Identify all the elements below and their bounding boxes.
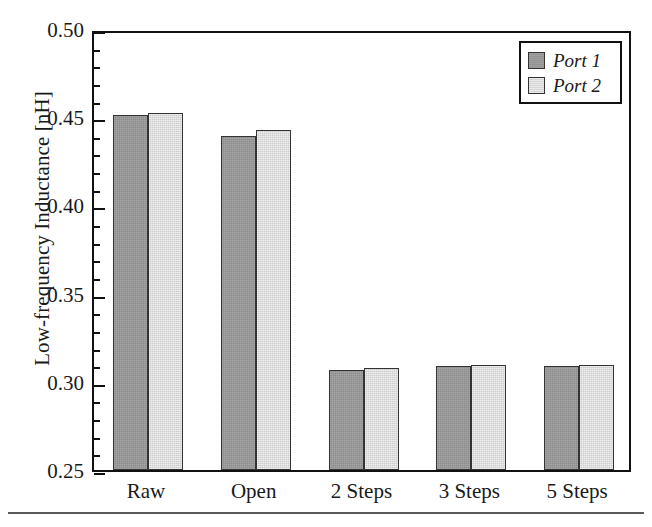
y-axis-tick-label: 0.45	[24, 108, 84, 129]
bar-open-port-2	[256, 130, 291, 470]
y-axis-tick-labels: 0.250.300.350.400.450.50	[20, 0, 84, 527]
y-axis-tick-label: 0.50	[24, 20, 84, 41]
legend: Port 1 Port 2	[519, 41, 622, 104]
bar-5-steps-port-2	[579, 365, 614, 470]
y-axis-minor-tick	[94, 455, 100, 457]
bar-open-port-1	[221, 136, 256, 470]
legend-item-port-2: Port 2	[528, 73, 614, 98]
bar-chart-figure: Low-frequency Inductance [nH] 0.250.300.…	[0, 0, 652, 527]
y-axis-minor-tick	[94, 244, 100, 246]
footer-divider	[8, 512, 644, 514]
y-axis-minor-tick	[94, 314, 100, 316]
y-axis-minor-tick	[94, 191, 100, 193]
bar-3-steps-port-1	[436, 366, 471, 470]
y-axis-major-tick	[94, 473, 105, 475]
y-axis-minor-tick	[94, 402, 100, 404]
y-axis-minor-tick	[94, 438, 100, 440]
y-axis-major-tick	[94, 297, 105, 299]
y-axis-minor-tick	[94, 67, 100, 69]
bar-raw-port-1	[113, 115, 148, 470]
legend-label-port-1: Port 1	[553, 51, 601, 70]
legend-swatch-port-1-icon	[528, 52, 545, 69]
bar-2-steps-port-2	[364, 368, 399, 470]
y-axis-minor-tick	[94, 226, 100, 228]
y-axis-minor-tick	[94, 261, 100, 263]
bar-3-steps-port-2	[471, 365, 506, 470]
y-axis-minor-tick	[94, 173, 100, 175]
y-axis-minor-tick	[94, 279, 100, 281]
y-axis-major-tick	[94, 385, 105, 387]
y-axis-minor-tick	[94, 103, 100, 105]
legend-label-port-2: Port 2	[553, 76, 601, 95]
y-axis-tick-label: 0.30	[24, 373, 84, 394]
y-axis-minor-tick	[94, 138, 100, 140]
y-axis-minor-tick	[94, 350, 100, 352]
bar-5-steps-port-1	[544, 366, 579, 470]
y-axis-minor-tick	[94, 332, 100, 334]
y-axis-minor-tick	[94, 367, 100, 369]
y-axis-minor-tick	[94, 155, 100, 157]
bar-2-steps-port-1	[329, 370, 364, 470]
y-axis-major-tick	[94, 120, 105, 122]
y-axis-minor-tick	[94, 420, 100, 422]
y-axis-tick-label: 0.35	[24, 285, 84, 306]
x-axis-tick-label: 5 Steps	[507, 479, 647, 503]
y-axis-minor-tick	[94, 50, 100, 52]
legend-item-port-1: Port 1	[528, 48, 614, 73]
y-axis-tick-label: 0.40	[24, 196, 84, 217]
y-axis-major-tick	[94, 32, 105, 34]
legend-swatch-port-2-icon	[528, 77, 545, 94]
bar-raw-port-2	[148, 113, 183, 470]
y-axis-minor-tick	[94, 85, 100, 87]
y-axis-major-tick	[94, 208, 105, 210]
